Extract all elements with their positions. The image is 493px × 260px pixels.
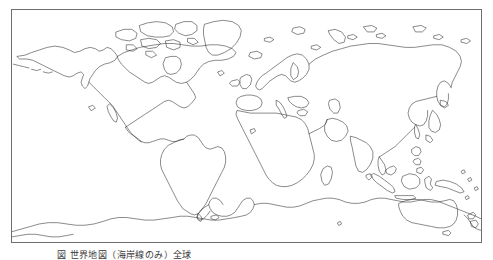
coastlines-south-america: [161, 135, 226, 221]
coastlines-minor-islands: [218, 33, 471, 134]
coastlines-africa: [236, 111, 332, 187]
coastlines-middle-east-asia: [309, 44, 461, 181]
figure-caption: 図 世界地図（海岸線のみ）全球: [57, 250, 192, 260]
coastlines-europe: [230, 54, 309, 118]
coastlines-north-america: [13, 44, 236, 143]
figure-root: 図 世界地図（海岸線のみ）全球: [0, 0, 493, 260]
world-map-panel: [11, 9, 482, 243]
coastlines-antarctica: [12, 198, 481, 237]
world-coastline-svg: [12, 10, 481, 242]
figure-caption-strip: 図 世界地図（海岸線のみ）全球: [0, 250, 493, 260]
coastlines-island-arcs-oceania: [89, 105, 479, 235]
coastlines-arctic-greenland: [116, 20, 426, 59]
